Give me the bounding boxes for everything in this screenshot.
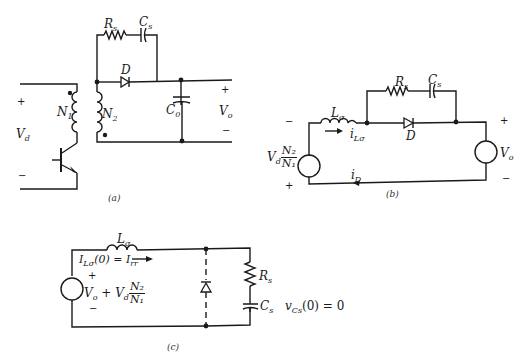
diode-reverse-icon bbox=[201, 282, 211, 292]
label-rs: Rs bbox=[395, 76, 408, 91]
panel-a-circuit bbox=[20, 28, 232, 189]
label-vcs-initial: vCs(0) = 0 bbox=[285, 300, 344, 315]
primary-bottom-wire bbox=[20, 173, 77, 189]
panel-b-circuit bbox=[298, 84, 497, 186]
label-vd: Vd bbox=[16, 128, 30, 143]
n2-polarity-dot bbox=[103, 133, 107, 137]
n1-polarity-dot bbox=[68, 91, 72, 95]
label-cs: Cs bbox=[139, 16, 152, 31]
label-i-d: iD bbox=[351, 169, 361, 184]
label-vo: Vo bbox=[500, 147, 514, 162]
bjt-transistor-icon bbox=[52, 143, 77, 173]
vo-minus-sign: − bbox=[502, 173, 510, 184]
vd-plus-sign: + bbox=[17, 96, 25, 107]
snubber-right-wire bbox=[145, 35, 157, 81]
rs-resistor-icon bbox=[245, 262, 255, 286]
source-plus-sign: + bbox=[285, 180, 293, 191]
caption-c: (c) bbox=[167, 342, 179, 352]
left-top-wire bbox=[309, 123, 321, 156]
label-cs: Cs bbox=[428, 74, 441, 89]
vo-plus-sign: + bbox=[221, 84, 229, 95]
label-c0: C0 bbox=[166, 104, 180, 119]
source-minus-sign: − bbox=[285, 116, 293, 127]
label-lsigma: Lσ bbox=[117, 233, 130, 248]
voltage-source-icon bbox=[61, 278, 83, 300]
vo-plus-sign: + bbox=[500, 115, 508, 126]
source-plus-sign: + bbox=[88, 270, 96, 281]
label-lsigma: Lσ bbox=[331, 107, 344, 122]
label-i-lsigma: iLσ bbox=[350, 128, 365, 143]
snubber-left-wire bbox=[97, 35, 104, 82]
bottom-wire bbox=[309, 163, 486, 184]
label-rs: Rs bbox=[104, 18, 117, 33]
vo-source-icon bbox=[475, 141, 497, 163]
label-diode: D bbox=[121, 64, 131, 76]
cs-capacitor-icon bbox=[243, 286, 258, 312]
label-vo: Vo bbox=[219, 105, 233, 120]
source-minus-sign: − bbox=[89, 303, 97, 314]
label-rs: Rs bbox=[259, 270, 272, 285]
label-diode: D bbox=[406, 130, 416, 142]
vd-minus-sign: − bbox=[18, 170, 26, 181]
n1-winding-icon bbox=[72, 92, 77, 132]
label-source-vd-ratio: VdN₂N₁ bbox=[267, 145, 297, 169]
label-n1: N1 bbox=[57, 106, 73, 121]
label-n2: N2 bbox=[102, 108, 118, 123]
primary-top-wire bbox=[20, 84, 77, 92]
secondary-bottom-wire bbox=[97, 132, 232, 142]
caption-a: (a) bbox=[108, 193, 120, 203]
diode-icon bbox=[121, 77, 129, 87]
diode-icon bbox=[404, 118, 413, 128]
label-initial-current: ILσ(0) = Irr bbox=[79, 254, 138, 268]
vo-minus-sign: − bbox=[222, 125, 230, 136]
label-source-expression: Vo + VdN₂N₁ bbox=[84, 281, 145, 305]
label-cs: Cs bbox=[260, 300, 273, 315]
voltage-source-icon bbox=[298, 155, 320, 177]
caption-b: (b) bbox=[386, 189, 399, 199]
